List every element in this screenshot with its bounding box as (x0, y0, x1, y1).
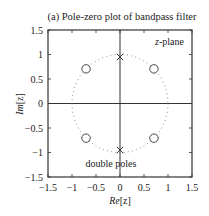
zero-marker (150, 134, 158, 142)
y-tick-label: −1 (32, 147, 43, 158)
y-tick-label: 1.5 (31, 25, 44, 36)
y-tick-label: 1 (38, 49, 43, 60)
y-tick-label: 0 (38, 98, 43, 109)
y-axis-label: Im[z] (14, 93, 25, 116)
zero-marker (82, 134, 90, 142)
x-tick-label: −1 (67, 182, 78, 193)
x-tick-label: 1.5 (186, 182, 199, 193)
zplane-label: z-plane (154, 36, 184, 47)
x-tick-label: 0.5 (138, 182, 151, 193)
chart-title: (a) Pole-zero plot of bandpass filter (48, 11, 197, 23)
y-tick-label: 0.5 (31, 74, 44, 85)
y-tick-labels: −1.5−1−0.500.511.5 (25, 25, 43, 183)
zero-marker (150, 65, 158, 73)
x-tick-label: −0.5 (87, 182, 105, 193)
zero-marker (82, 65, 90, 73)
y-tick-label: −1.5 (25, 172, 43, 183)
y-tick-label: −0.5 (25, 123, 43, 134)
x-tick-label: 0 (118, 182, 123, 193)
double-poles-label: double poles (86, 158, 137, 169)
pole-zero-chart: (a) Pole-zero plot of bandpass filter −1… (0, 0, 209, 216)
x-tick-label: 1 (166, 182, 171, 193)
x-tick-label: −1.5 (39, 182, 57, 193)
axis-lines (48, 30, 192, 177)
x-axis-label: Re[z] (108, 195, 131, 206)
x-tick-labels: −1.5−1−0.500.511.5 (39, 182, 198, 193)
